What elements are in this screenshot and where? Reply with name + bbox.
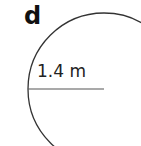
part-label: d [24, 4, 41, 28]
radius-label: 1.4 m [37, 63, 86, 80]
circle-diagram: d 1.4 m [0, 0, 141, 146]
